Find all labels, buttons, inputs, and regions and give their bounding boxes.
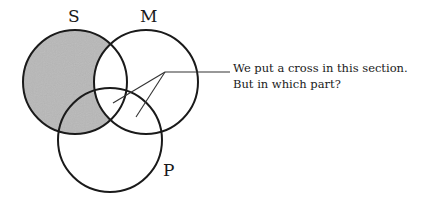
pointer-lines xyxy=(113,72,230,117)
annotation-text: We put a cross in this section. But in w… xyxy=(233,60,408,92)
set-label-p: P xyxy=(163,162,174,179)
set-label-s: S xyxy=(68,8,80,25)
annotation-line-2: But in which part? xyxy=(233,76,408,92)
set-label-m: M xyxy=(140,8,157,25)
annotation-line-1: We put a cross in this section. xyxy=(233,60,408,76)
venn-diagram xyxy=(0,0,421,206)
pointer-to-mp-region xyxy=(136,72,165,117)
